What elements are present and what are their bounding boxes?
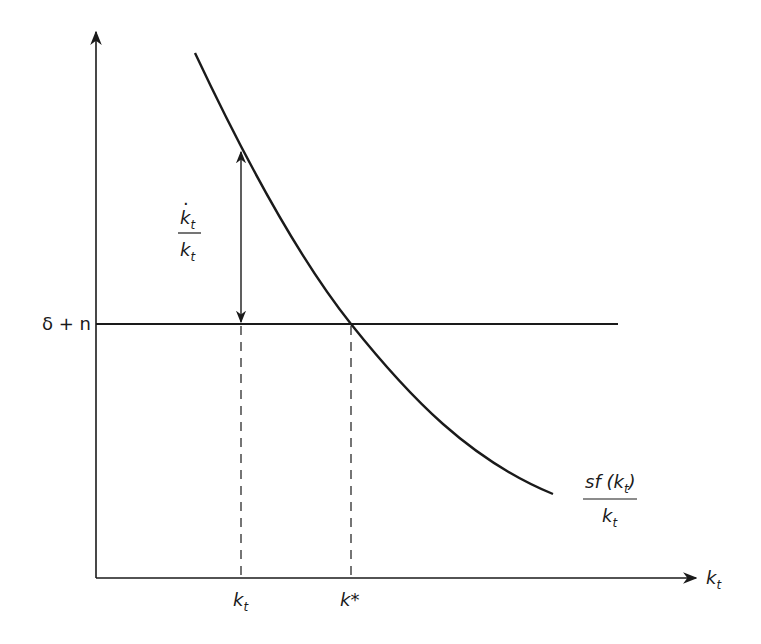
kt-tick-label: kt <box>233 589 249 614</box>
svg-text:kt: kt <box>180 207 196 232</box>
growth-rate-label: · kt kt <box>178 193 201 264</box>
svg-text:kt: kt <box>602 505 618 530</box>
solow-diagram: kt δ + n sf (kt) kt · kt kt kt k* <box>0 0 761 644</box>
kstar-tick-label: k* <box>340 589 359 610</box>
depreciation-plus-growth-label: δ + n <box>42 313 91 334</box>
svg-text:kt: kt <box>180 239 196 264</box>
svg-text:sf (kt): sf (kt) <box>585 471 636 496</box>
x-axis-label: kt <box>706 567 722 592</box>
curve-label: sf (kt) kt <box>583 471 637 530</box>
savings-per-capital-curve <box>195 53 553 494</box>
